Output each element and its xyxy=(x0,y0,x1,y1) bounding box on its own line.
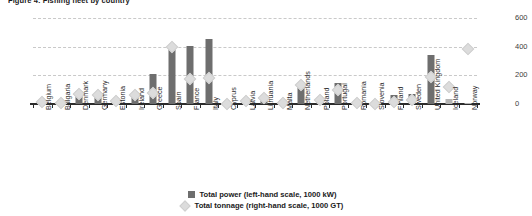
y-axis-right-tick: 0 xyxy=(515,100,532,108)
x-axis-label-slovenia: Slovenia xyxy=(378,82,386,110)
x-axis-label-ireland: Ireland xyxy=(138,88,146,110)
x-axis-label-malta: Malta xyxy=(286,92,294,110)
y-axis-right-tick: 200 xyxy=(515,71,532,79)
x-axis-label-bulgaria: Bulgaria xyxy=(64,84,72,110)
legend-label-total-tonnage: Total tonnage (right-hand scale, 1000 GT… xyxy=(195,201,344,210)
x-axis-label-netherlands: Netherlands xyxy=(304,71,312,110)
x-axis-label-latvia: Latvia xyxy=(249,91,257,110)
legend-item-total-tonnage: Total tonnage (right-hand scale, 1000 GT… xyxy=(181,201,344,210)
x-axis-label-poland: Poland xyxy=(323,88,331,110)
x-axis-label-cyprus: Cyprus xyxy=(230,87,238,110)
chart-legend: Total power (left-hand scale, 1000 kW) T… xyxy=(0,190,524,210)
bar-swatch-icon xyxy=(188,191,195,198)
x-axis-label-lithuania: Lithuania xyxy=(267,81,275,110)
x-axis-labels: BelgiumBulgariaDenmarkGermanyEstoniaIrel… xyxy=(33,108,477,166)
x-axis-label-denmark: Denmark xyxy=(82,81,90,110)
y-axis-right-tick: 400 xyxy=(515,43,532,51)
x-axis-label-estonia: Estonia xyxy=(119,86,127,110)
y-axis-right-tick: 600 xyxy=(515,14,532,22)
x-axis-label-sweden: Sweden xyxy=(415,84,423,110)
x-axis-label-norway: Norway xyxy=(471,86,479,110)
diamond-swatch-icon xyxy=(179,200,190,211)
x-axis-label-france: France xyxy=(193,88,201,110)
x-axis-label-germany: Germany xyxy=(101,80,109,110)
x-axis-label-italy: Italy xyxy=(212,97,220,110)
chart-title: Figure 4: Fishing fleet by country xyxy=(8,0,130,6)
x-axis-label-greece: Greece xyxy=(156,86,164,110)
x-axis-label-portugal: Portugal xyxy=(341,83,349,110)
x-axis-label-finland: Finland xyxy=(397,86,405,110)
legend-label-total-power: Total power (left-hand scale, 1000 kW) xyxy=(200,190,337,199)
marker-total-tonnage[interactable] xyxy=(461,42,474,55)
x-axis-label-romania: Romania xyxy=(360,81,368,110)
x-axis-label-iceland: Iceland xyxy=(452,87,460,110)
x-axis-label-belgium: Belgium xyxy=(45,84,53,110)
x-axis-label-united-kingdom: United Kingdom xyxy=(434,59,442,110)
bar-group[interactable] xyxy=(200,18,219,104)
x-axis-label-spain: Spain xyxy=(175,92,183,110)
legend-item-total-power: Total power (left-hand scale, 1000 kW) xyxy=(188,190,337,199)
